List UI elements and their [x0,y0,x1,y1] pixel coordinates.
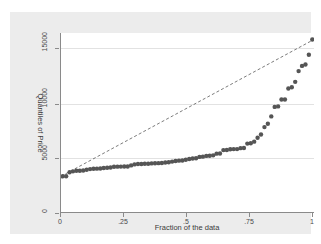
x-tick-mark-025 [123,213,124,217]
data-point [259,132,263,136]
data-point [266,122,270,126]
plot-svg [61,33,314,212]
data-point [293,80,297,84]
data-point [218,151,222,155]
data-point [269,114,273,118]
x-tick-mark-05 [186,213,187,217]
data-point [252,139,256,143]
x-tick-mark-1 [312,213,313,217]
y-tick-mark-5000 [55,158,59,159]
data-point [242,146,246,150]
plot-region [60,33,314,213]
data-points-group [61,37,314,178]
chart-canvas: Quantiles of Price 15000 10000 5000 [10,12,311,234]
y-tick-mark-0 [55,213,59,214]
y-tick-label-10000: 10000 [41,88,48,107]
y-tick-mark-15000 [55,48,59,49]
figure: Quantiles of Price 15000 10000 5000 [0,0,321,244]
data-point [255,135,259,139]
data-point [283,97,287,101]
y-tick-label-15000: 15000 [41,32,48,51]
y-tick-label-0: 0 [41,209,48,213]
data-point [64,174,68,178]
data-point [296,69,300,73]
x-tick-mark-075 [249,213,250,217]
data-point [262,125,266,129]
y-tick-mark-10000 [55,104,59,105]
data-point [303,62,307,66]
data-point [307,53,311,57]
data-point [276,104,280,108]
x-tick-mark-0 [60,213,61,217]
x-axis-title: Fraction of the data [60,223,314,232]
y-axis-ticks: 15000 10000 5000 0 [10,33,60,213]
data-point [310,37,314,41]
data-point [290,85,294,89]
y-tick-label-5000: 5000 [41,145,48,161]
